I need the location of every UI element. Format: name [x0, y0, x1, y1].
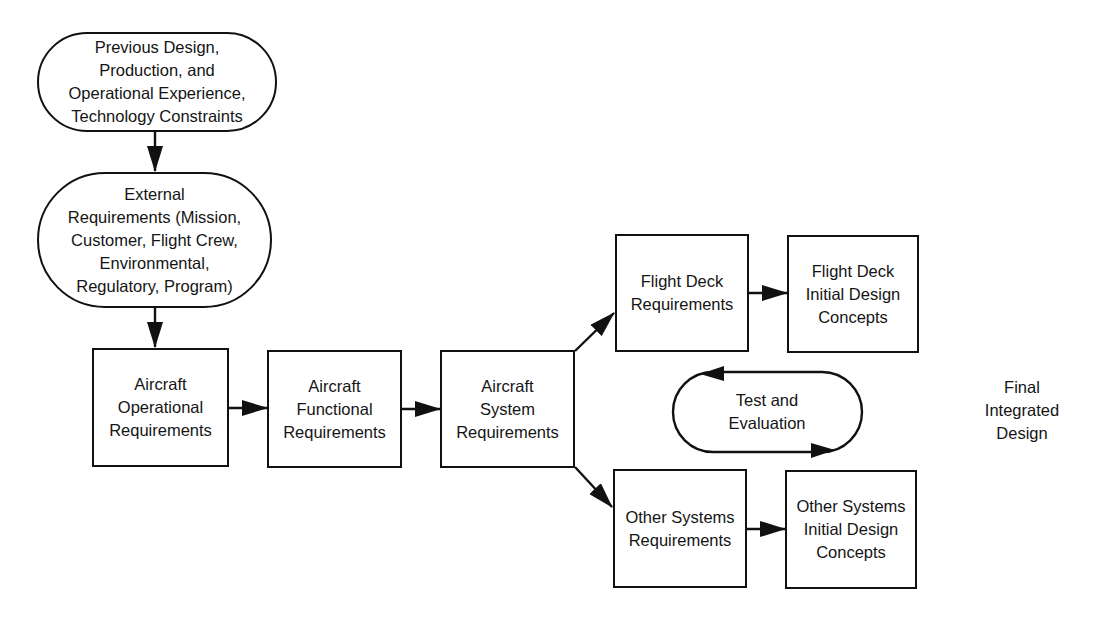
node-final-integrated-design: Final Integrated Design [970, 372, 1074, 448]
node-previous-design: Previous Design, Production, and Operati… [37, 32, 277, 132]
node-flight-deck-requirements-label: Flight Deck Requirements [631, 270, 734, 316]
node-flight-deck-initial-design-label: Flight Deck Initial Design Concepts [806, 260, 900, 329]
node-aircraft-functional: Aircraft Functional Requirements [267, 350, 402, 468]
node-aircraft-system-label: Aircraft System Requirements [456, 375, 559, 444]
node-external-requirements: External Requirements (Mission, Customer… [37, 172, 272, 308]
node-other-systems-initial-design: Other Systems Initial Design Concepts [785, 470, 917, 589]
node-other-systems-initial-design-label: Other Systems Initial Design Concepts [796, 495, 905, 564]
node-aircraft-functional-label: Aircraft Functional Requirements [283, 375, 386, 444]
node-previous-design-label: Previous Design, Production, and Operati… [68, 36, 245, 128]
node-test-and-evaluation: Test and Evaluation [672, 372, 862, 452]
node-external-requirements-label: External Requirements (Mission, Customer… [68, 183, 241, 298]
node-test-and-evaluation-label: Test and Evaluation [728, 389, 805, 435]
node-other-systems-requirements: Other Systems Requirements [613, 469, 747, 588]
arrow-system-to-other-systems [575, 467, 612, 507]
node-aircraft-system: Aircraft System Requirements [440, 350, 575, 468]
node-aircraft-operational-label: Aircraft Operational Requirements [109, 373, 212, 442]
arrow-system-to-flight-deck [575, 313, 614, 351]
node-aircraft-operational: Aircraft Operational Requirements [92, 348, 229, 467]
node-flight-deck-requirements: Flight Deck Requirements [615, 234, 749, 352]
node-final-integrated-design-label: Final Integrated Design [985, 376, 1059, 445]
node-flight-deck-initial-design: Flight Deck Initial Design Concepts [787, 235, 919, 353]
node-other-systems-requirements-label: Other Systems Requirements [625, 506, 734, 552]
